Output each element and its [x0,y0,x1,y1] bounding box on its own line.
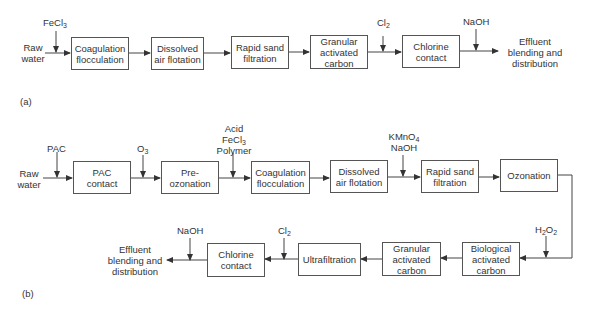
step-biological-activated-carbon-b: Biologicalactivatedcarbon [462,242,520,276]
chemical-acid-fecl3-polymer-b: Acid FeCl3 Polymer [214,123,254,156]
step-line: flocculation [75,54,126,65]
chem-line: NaOH [388,142,420,153]
chemical-cl2-a: Cl2 [377,17,390,28]
chem-name: NaOH [463,16,489,27]
step-granular-activated-carbon-b: Granularactivatedcarbon [382,242,441,276]
chem-name: KMnO [389,131,416,142]
effluent-line: blending and [106,255,164,266]
step-pre-ozonation-b: Pre-ozonation [161,161,219,194]
raw-water-label-a: Raw water [18,42,48,64]
step-coagulation-flocculation-a: Coagulationflocculation [71,37,129,70]
chem-name: Cl [377,17,386,28]
chem-name: Cl [278,225,287,236]
chemical-fecl3-a: FeCl3 [43,17,67,28]
chem-line: Acid [214,123,254,134]
chemical-naoh-a: NaOH [463,16,489,27]
step-line: Ultrafiltration [303,254,356,265]
step-line: Biological [471,243,512,254]
step-line: contact [413,52,448,63]
step-line: contact [87,178,118,189]
chemical-o3-b: O3 [137,143,148,154]
chem-line: KMnO4 [388,131,420,142]
step-ozonation-b: Ozonation [500,159,558,192]
chem-line: Polymer [214,145,254,156]
step-granular-activated-carbon-a: Granularactivatedcarbon [310,35,368,69]
step-line: carbon [471,265,512,276]
step-line: Granular [320,36,358,47]
chemical-cl2-b: Cl2 [278,225,291,236]
step-line: air flotation [336,177,382,188]
step-ultrafiltration-b: Ultrafiltration [298,243,361,276]
chem-line: FeCl3 [214,134,254,145]
chemical-h2o2-b: H2O2 [535,224,557,235]
step-line: filtration [426,177,474,188]
step-line: activated [320,47,358,58]
effluent-line: distribution [500,58,570,69]
step-line: contact [218,260,253,271]
step-coagulation-flocculation-b: Coagulationflocculation [251,161,310,194]
chemical-kmno4-naoh-b: KMnO4 NaOH [388,131,420,153]
step-chlorine-contact-a: Chlorinecontact [402,35,460,68]
step-chlorine-contact-b: Chlorinecontact [207,243,265,277]
step-line: carbon [392,265,430,276]
step-line: Rapid sand [426,166,474,177]
step-line: activated [471,254,512,265]
step-line: carbon [320,58,358,69]
part-label-a: (a) [20,96,32,107]
effluent-line: blending and [500,47,570,58]
effluent-line: distribution [106,266,164,277]
step-line: flocculation [255,178,306,189]
chem-sub: 2 [287,230,291,237]
step-pac-contact-b: PACcontact [73,161,131,194]
effluent-line: Effluent [500,36,570,47]
effluent-line: Effluent [106,244,164,255]
step-line: Dissolved [336,166,382,177]
step-line: Granular [392,243,430,254]
step-dissolved-air-flotation-b: Dissolvedair flotation [330,160,388,193]
effluent-label-b: Effluent blending and distribution [106,244,164,277]
step-line: ozonation [169,178,210,189]
chem-name: FeCl [43,17,63,28]
part-label-b: (b) [22,288,34,299]
step-line: Chlorine [413,41,448,52]
raw-water-line1: Raw [18,42,48,53]
step-rapid-sand-filtration-b: Rapid sandfiltration [421,160,479,193]
chem-sub: 3 [144,148,148,155]
chem-name: NaOH [177,225,203,236]
raw-water-line1: Raw [14,168,44,179]
step-line: Dissolved [154,43,200,54]
step-line: Coagulation [255,167,306,178]
step-line: air flotation [154,54,200,65]
step-line: Ozonation [507,170,550,181]
raw-water-line2: water [14,179,44,190]
chem-name: H [535,224,542,235]
chem-sub: 2 [386,22,390,29]
chemical-pac-b: PAC [47,143,66,154]
step-line: Coagulation [75,43,126,54]
step-line: Pre- [169,167,210,178]
step-dissolved-air-flotation-a: Dissolvedair flotation [151,37,204,70]
effluent-label-a: Effluent blending and distribution [500,36,570,69]
chemical-naoh-b: NaOH [177,225,203,236]
step-line: activated [392,254,430,265]
step-line: filtration [236,53,284,64]
step-line: Chlorine [218,249,253,260]
chem-sub: 2 [553,229,557,236]
step-rapid-sand-filtration-a: Rapid sandfiltration [231,36,289,69]
raw-water-line2: water [18,53,48,64]
step-line: Rapid sand [236,42,284,53]
step-line: PAC [87,167,118,178]
chem-name: PAC [47,143,66,154]
chem-name: FeCl [222,134,242,145]
chem-sub: 3 [63,22,67,29]
raw-water-label-b: Raw water [14,168,44,190]
